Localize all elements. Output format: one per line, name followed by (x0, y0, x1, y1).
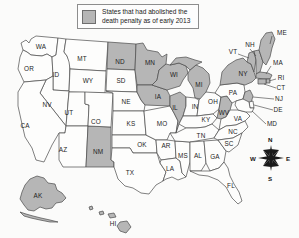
state-label-SC: SC (224, 140, 233, 147)
death-penalty-map-figure: WAORIDMTWYNVUTCAAZNMCONDSDNEKSOKTXMNIAMO… (0, 0, 299, 238)
state-label-KS: KS (127, 120, 136, 127)
state-label-ND: ND (115, 58, 125, 65)
legend-line-1: States that had abolished the (102, 8, 190, 17)
leader-CT (264, 84, 276, 88)
state-label-CO: CO (91, 118, 101, 125)
leader-NJ (253, 97, 274, 99)
state-label-LA: LA (166, 165, 175, 172)
state-label-AR: AR (161, 142, 170, 149)
state-MA[interactable] (256, 72, 272, 79)
leader-VT (238, 54, 249, 58)
legend-swatch-abolished (82, 10, 96, 24)
state-label-NY: NY (238, 70, 248, 77)
state-CT[interactable] (258, 79, 266, 84)
state-HI-oahu[interactable] (99, 211, 104, 215)
state-label-ME: ME (277, 29, 287, 36)
state-label-AL: AL (194, 152, 202, 159)
state-label-VT: VT (229, 48, 237, 55)
state-label-CA: CA (20, 122, 30, 129)
state-label-NH: NH (245, 41, 255, 48)
state-label-PA: PA (229, 89, 238, 96)
state-label-DE: DE (273, 106, 282, 113)
state-label-OK: OK (137, 141, 147, 148)
leader-DE (254, 105, 273, 110)
us-map: WAORIDMTWYNVUTCAAZNMCONDSDNEKSOKTXMNIAMO… (0, 0, 299, 238)
compass-star-icon (258, 145, 284, 171)
state-HI-kauai[interactable] (89, 206, 93, 210)
state-label-VA: VA (234, 115, 243, 122)
state-label-TN: TN (197, 132, 206, 139)
compass-east-label: E (286, 155, 290, 162)
state-label-MD: MD (267, 120, 277, 127)
state-label-CT: CT (277, 84, 286, 91)
state-label-MA: MA (273, 59, 283, 66)
state-label-MO: MO (157, 120, 168, 127)
state-label-GA: GA (210, 153, 220, 160)
state-label-ID: ID (53, 71, 60, 78)
state-ND[interactable] (107, 42, 136, 70)
state-label-MN: MN (145, 59, 155, 66)
state-label-MT: MT (77, 55, 87, 62)
state-label-MS: MS (178, 152, 188, 159)
compass-rose: N S E W (249, 136, 293, 184)
map-legend: States that had abolished the death pena… (77, 4, 199, 29)
state-label-FL: FL (227, 182, 235, 189)
state-label-MI: MI (195, 81, 202, 88)
state-label-RI: RI (278, 74, 285, 81)
state-AK-aleutians (20, 212, 58, 222)
state-label-NM: NM (93, 148, 103, 155)
state-label-NC: NC (228, 128, 238, 135)
state-label-WV: WV (219, 109, 230, 116)
compass-west-label: W (250, 155, 256, 162)
state-label-IA: IA (155, 93, 162, 100)
state-label-AZ: AZ (59, 146, 67, 153)
state-label-HI: HI (110, 220, 117, 227)
state-label-SD: SD (116, 77, 125, 84)
state-label-IN: IN (192, 103, 199, 110)
state-label-TX: TX (126, 169, 135, 176)
state-label-NJ: NJ (275, 95, 283, 102)
leader-MD (252, 111, 266, 124)
state-label-KY: KY (202, 116, 211, 123)
state-NM[interactable] (86, 126, 114, 167)
compass-south-label: S (268, 175, 272, 182)
state-label-WI: WI (170, 71, 178, 78)
state-label-WA: WA (36, 43, 47, 50)
state-AK[interactable] (20, 176, 66, 211)
state-label-IL: IL (172, 104, 178, 111)
state-HI-big-island[interactable] (117, 221, 131, 233)
state-label-NE: NE (121, 98, 130, 105)
state-label-AK: AK (34, 192, 43, 199)
legend-line-2: death penalty as of early 2013 (102, 17, 190, 26)
state-HI-maui[interactable] (108, 213, 116, 218)
state-label-UT: UT (65, 109, 74, 116)
state-label-NV: NV (42, 101, 52, 108)
leader-MA (266, 66, 271, 74)
legend-text: States that had abolished the death pena… (102, 8, 190, 25)
state-label-WY: WY (83, 77, 94, 84)
state-label-OH: OH (208, 98, 218, 105)
state-label-OR: OR (24, 65, 34, 72)
compass-north-label: N (268, 136, 272, 143)
